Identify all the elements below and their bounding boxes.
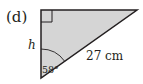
- part-label: (d): [6, 8, 27, 26]
- angle-label: 58°: [42, 64, 59, 75]
- hypotenuse-label: 27 cm: [86, 49, 123, 63]
- side-h-label: h: [28, 38, 36, 52]
